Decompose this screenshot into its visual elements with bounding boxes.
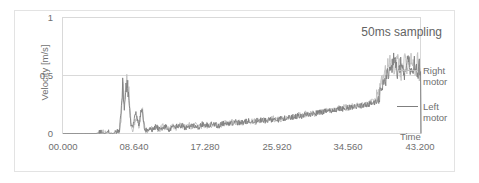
legend-item-right-motor[interactable]: Right motor <box>397 65 469 87</box>
legend-swatch-left-motor <box>397 106 418 107</box>
x-tick-0: 00.000 <box>33 141 93 152</box>
x-tick-3: 25.920 <box>247 141 307 152</box>
y-tick-0.5: 0.5 <box>19 70 53 81</box>
series-line-left-motor <box>63 53 421 134</box>
legend-label-right-motor-line1: Right <box>423 65 469 76</box>
x-tick-1: 08.640 <box>104 141 164 152</box>
legend-item-left-motor[interactable]: Left motor <box>397 101 469 123</box>
chart-legend: Right motor Left motor <box>397 65 469 137</box>
sampling-annotation: 50ms sampling <box>361 25 442 39</box>
legend-label-right-motor-line2: motor <box>423 76 469 87</box>
x-tick-4: 34.560 <box>318 141 378 152</box>
x-tick-2: 17.280 <box>175 141 235 152</box>
y-tick-1: 1 <box>19 12 53 23</box>
legend-label-left-motor-line1: Left <box>423 101 469 112</box>
y-tick-0: 0 <box>19 128 53 139</box>
legend-swatch-right-motor <box>397 70 418 71</box>
x-tick-5: 43.200 <box>390 141 450 152</box>
chart-frame: Velocity [m/s] 1 0.5 0 00.000 08.640 17.… <box>14 10 455 172</box>
legend-label-left-motor-line2: motor <box>423 112 469 123</box>
